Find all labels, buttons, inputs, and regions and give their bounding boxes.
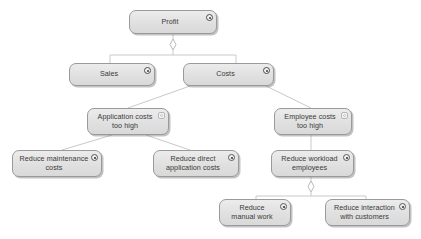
node-reduce-manual-work[interactable]: Reduce manual work (219, 199, 291, 226)
edge-application-maintenance (62, 135, 112, 150)
node-employee-costs-too-high[interactable]: Employee costs too high (274, 108, 352, 135)
goal-icon (280, 203, 287, 210)
node-sales-label: Sales (96, 70, 128, 79)
goal-icon (399, 203, 406, 210)
gear-icon (206, 14, 213, 21)
goal-icon (228, 154, 235, 161)
gear-icon (263, 67, 270, 74)
gear-icon (144, 67, 151, 74)
node-costs[interactable]: Costs (183, 63, 274, 86)
node-reduce-maintenance-costs-label: Reduce maintenance costs (16, 155, 99, 172)
assessment-icon (158, 112, 165, 119)
diagram-canvas: Profit Sales Costs Application costs too… (0, 0, 421, 239)
junction-diamond-1 (170, 39, 176, 50)
goal-icon (91, 154, 98, 161)
node-reduce-workload-employees-label: Reduce workload employees (277, 155, 347, 172)
node-profit[interactable]: Profit (129, 10, 217, 34)
node-reduce-direct-application-costs-label: Reduce direct application costs (162, 155, 230, 172)
assessment-icon (341, 112, 348, 119)
node-reduce-manual-work-label: Reduce manual work (227, 204, 282, 221)
node-application-costs-too-high-label: Application costs too high (94, 113, 163, 130)
node-reduce-direct-application-costs[interactable]: Reduce direct application costs (153, 150, 239, 177)
edge-application-direct (146, 135, 190, 150)
node-employee-costs-too-high-label: Employee costs too high (280, 113, 345, 130)
edge-costs-employee (266, 86, 311, 108)
junction-diamond-2 (308, 181, 314, 192)
node-profit-label: Profit (157, 18, 188, 27)
edge-costs-application (128, 86, 190, 108)
node-sales[interactable]: Sales (69, 63, 155, 86)
node-reduce-maintenance-costs[interactable]: Reduce maintenance costs (12, 150, 102, 177)
goal-icon (343, 154, 350, 161)
node-application-costs-too-high[interactable]: Application costs too high (87, 108, 169, 135)
node-reduce-interaction-with-customers[interactable]: Reduce interaction with customers (325, 199, 410, 226)
node-reduce-interaction-with-customers-label: Reduce interaction with customers (330, 204, 405, 221)
node-reduce-workload-employees[interactable]: Reduce workload employees (271, 150, 354, 177)
node-costs-label: Costs (212, 70, 245, 79)
